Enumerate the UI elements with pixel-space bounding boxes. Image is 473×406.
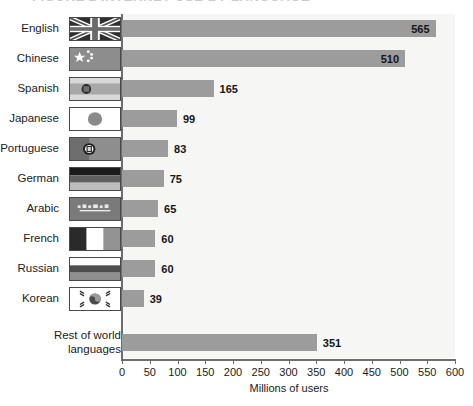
- bar-value-label: 39: [150, 290, 200, 307]
- bar: [122, 170, 164, 187]
- flag-france-icon: [69, 227, 121, 251]
- x-axis-tick: [233, 360, 234, 364]
- bar-row: Korean 39: [0, 284, 473, 314]
- category-label: Rest of world languages: [6, 328, 121, 358]
- flag-spain-icon: [69, 77, 121, 101]
- bar-row: Spanish 165: [0, 74, 473, 104]
- bar-row: Portuguese 83: [0, 134, 473, 164]
- flag-united-kingdom-icon: [69, 17, 121, 41]
- flag-south-korea-icon: [69, 287, 121, 311]
- x-axis-tick: [261, 360, 262, 364]
- figure-title: FIGURE 2 INTERNET USE BY LANGUAGE: [32, 0, 310, 4]
- figure-title-strip: FIGURE 2 INTERNET USE BY LANGUAGE: [0, 0, 473, 10]
- x-axis-tick: [150, 360, 151, 364]
- flag-china-icon: [69, 47, 121, 71]
- flag-japan-icon: [69, 107, 121, 131]
- category-label: Chinese: [0, 44, 59, 74]
- x-axis-tick: [122, 360, 123, 364]
- bar-row: German 75: [0, 164, 473, 194]
- flag-portugal-icon: [69, 137, 121, 161]
- bar-row: Arabic 65: [0, 194, 473, 224]
- bar-value-label: 165: [220, 80, 270, 97]
- x-axis-tick: [289, 360, 290, 364]
- bar: [122, 334, 317, 351]
- x-axis: 050100150200250300350400450500550600 Mil…: [0, 360, 473, 406]
- bar-value-label: 565: [122, 20, 430, 37]
- bar-value-label: 60: [161, 230, 211, 247]
- category-label: Arabic: [0, 194, 59, 224]
- bar-value-label: 351: [323, 334, 373, 351]
- bar: [122, 80, 214, 97]
- x-axis-tick: [372, 360, 373, 364]
- flag-saudi-arabia-icon: [69, 197, 121, 221]
- category-label: Russian: [0, 254, 59, 284]
- category-label: Portuguese: [0, 134, 59, 164]
- x-axis-tick: [344, 360, 345, 364]
- bar: [122, 200, 158, 217]
- bar: [122, 290, 144, 307]
- flag-russia-icon: [69, 257, 121, 281]
- x-axis-tick: [178, 360, 179, 364]
- bar-row: English 565: [0, 14, 473, 44]
- bar-row: Russian 60: [0, 254, 473, 284]
- bar-value-label: 83: [174, 140, 224, 157]
- x-axis-tick: [455, 360, 456, 364]
- bar-row: Japanese 99: [0, 104, 473, 134]
- x-axis-tick: [400, 360, 401, 364]
- bar-value-label: 99: [183, 110, 233, 127]
- flag-germany-icon: [69, 167, 121, 191]
- bar-value-label: 65: [164, 200, 214, 217]
- bar-value-label: 75: [170, 170, 220, 187]
- bar: [122, 260, 155, 277]
- bar-value-label: 60: [161, 260, 211, 277]
- x-axis-tick: [316, 360, 317, 364]
- x-axis-tick-label: 600: [435, 366, 473, 378]
- category-label: Japanese: [0, 104, 59, 134]
- x-axis-tick: [205, 360, 206, 364]
- bar-chart: English 565Chinese 510Spanish 165Japanes…: [0, 14, 473, 406]
- bar-row: Rest of world languages351: [0, 328, 473, 358]
- bar: [122, 230, 155, 247]
- category-label: Spanish: [0, 74, 59, 104]
- category-label: English: [0, 14, 59, 44]
- bar-value-label: 510: [122, 50, 399, 67]
- x-axis-title: Millions of users: [122, 382, 456, 394]
- category-label: Korean: [0, 284, 59, 314]
- bar: [122, 140, 168, 157]
- x-axis-tick: [427, 360, 428, 364]
- category-label: French: [0, 224, 59, 254]
- bar-row: Chinese 510: [0, 44, 473, 74]
- bar: [122, 110, 177, 127]
- category-label: German: [0, 164, 59, 194]
- bar-row: French 60: [0, 224, 473, 254]
